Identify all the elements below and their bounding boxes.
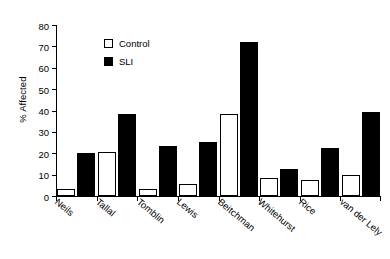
x-label-neils: Neils bbox=[53, 196, 76, 218]
filled-square-marker-icon bbox=[104, 57, 113, 66]
x-label-rice: Rice bbox=[297, 196, 319, 217]
x-axis-category-labels: NeilsTallalTomblinLewisBeitchmanWhitehur… bbox=[56, 196, 381, 259]
y-tick-label: 80 bbox=[38, 20, 49, 31]
bar-sli-van-der-lely bbox=[362, 112, 380, 196]
legend-item-control: Control bbox=[104, 38, 150, 49]
bar-control-tallal bbox=[98, 152, 116, 196]
bar-sli-rice bbox=[321, 148, 339, 196]
x-label-whitehurst: Whitehurst bbox=[256, 196, 298, 234]
y-tick-label: 0 bbox=[44, 191, 49, 202]
bar-control-van-der-lely bbox=[342, 175, 360, 196]
bar-sli-beitchman bbox=[240, 42, 258, 196]
y-tick-label: 40 bbox=[38, 106, 49, 117]
bar-sli-lewis bbox=[199, 142, 217, 196]
bar-sli-tallal bbox=[118, 114, 136, 196]
chart-legend: Control SLI bbox=[104, 38, 150, 67]
x-label-tallal: Tallal bbox=[94, 196, 118, 218]
bar-chart-figure: % Affected 01020304050607080 NeilsTallal… bbox=[0, 0, 390, 259]
x-label-van-der-lely: van der Lely bbox=[338, 196, 385, 238]
y-tick-label: 60 bbox=[38, 63, 49, 74]
bar-control-rice bbox=[301, 180, 319, 196]
legend-label-control: Control bbox=[119, 38, 150, 49]
y-axis-title: % Affected bbox=[17, 56, 28, 144]
bar-sli-tomblin bbox=[159, 146, 177, 196]
y-tick-label: 70 bbox=[38, 41, 49, 52]
y-tick-label: 50 bbox=[38, 84, 49, 95]
y-tick-label: 10 bbox=[38, 170, 49, 181]
bar-control-whitehurst bbox=[260, 178, 278, 196]
y-tick-label: 20 bbox=[38, 148, 49, 159]
bar-control-neils bbox=[57, 189, 75, 196]
bar-sli-neils bbox=[77, 153, 95, 196]
bar-control-beitchman bbox=[220, 114, 238, 197]
y-tick-label: 30 bbox=[38, 127, 49, 138]
legend-label-sli: SLI bbox=[119, 56, 133, 67]
open-square-marker-icon bbox=[104, 39, 113, 48]
x-label-beitchman: Beitchman bbox=[216, 196, 257, 233]
x-label-tomblin: Tomblin bbox=[134, 196, 166, 225]
x-label-lewis: Lewis bbox=[175, 196, 201, 220]
bar-control-lewis bbox=[179, 184, 197, 196]
bar-sli-whitehurst bbox=[280, 169, 298, 196]
legend-item-sli: SLI bbox=[104, 56, 150, 67]
